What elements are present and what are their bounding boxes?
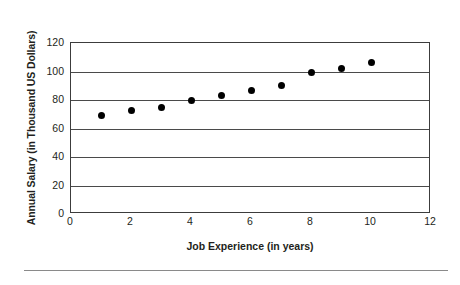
x-axis-tick-labels: 024681012 (70, 216, 430, 232)
data-point (338, 65, 345, 72)
y-tick-label-120: 120 (34, 37, 64, 48)
gridline-y-40 (71, 157, 429, 158)
data-point (188, 97, 195, 104)
x-tick-label-6: 6 (247, 216, 253, 227)
data-point (128, 107, 135, 114)
y-tick-label-80: 80 (34, 94, 64, 105)
data-point (308, 69, 315, 76)
y-tick-label-40: 40 (34, 151, 64, 162)
x-tick-label-10: 10 (364, 216, 376, 227)
data-point (248, 87, 255, 94)
y-tick-label-0: 0 (34, 208, 64, 219)
plot-area (70, 42, 430, 213)
y-tick-label-100: 100 (34, 65, 64, 76)
data-point (368, 59, 375, 66)
data-point (98, 112, 105, 119)
scatter-chart-figure: Annual Salary (in Thousand US Dollars) 0… (0, 0, 460, 285)
y-tick-label-20: 20 (34, 179, 64, 190)
data-point (218, 92, 225, 99)
gridline-y-100 (71, 72, 429, 73)
data-point (278, 82, 285, 89)
bottom-divider (24, 270, 448, 271)
x-tick-label-0: 0 (67, 216, 73, 227)
x-tick-label-12: 12 (424, 216, 436, 227)
gridline-y-80 (71, 100, 429, 101)
data-point (158, 104, 165, 111)
x-tick-label-2: 2 (127, 216, 133, 227)
gridline-y-20 (71, 186, 429, 187)
y-tick-label-60: 60 (34, 122, 64, 133)
gridline-y-60 (71, 129, 429, 130)
x-tick-label-8: 8 (307, 216, 313, 227)
x-tick-label-4: 4 (187, 216, 193, 227)
x-axis-title: Job Experience (in years) (70, 240, 430, 252)
y-axis-tick-labels: 020406080100120 (34, 0, 64, 285)
